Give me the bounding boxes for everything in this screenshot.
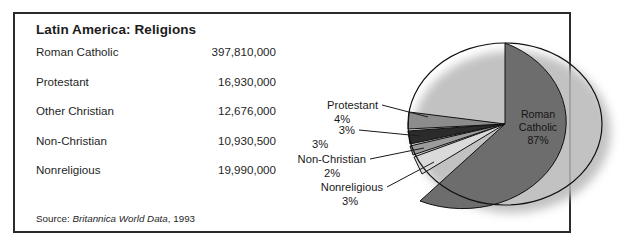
row-label-roman-catholic: Roman Catholic — [36, 46, 118, 58]
row-label-protestant: Protestant — [36, 76, 89, 88]
source-note: Source: Britannica World Data, 1993 — [36, 213, 195, 224]
pie-label-roman-catholic-line1: Roman — [521, 108, 555, 120]
table-row: Protestant 16,930,000 — [36, 76, 276, 88]
pie-callout-nonreligious: Nonreligious — [321, 181, 384, 193]
pie-label-roman-catholic-percent: 87% — [527, 134, 549, 146]
table-row: Other Christian 12,676,000 — [36, 105, 276, 117]
figure-latin-america-religions: Latin America: Religions Roman Catholic … — [0, 0, 634, 251]
row-label-non-christian: Non-Christian — [36, 135, 107, 147]
row-value-roman-catholic: 397,810,000 — [190, 46, 276, 58]
row-value-nonreligious: 19,990,000 — [190, 164, 276, 176]
pie-chart-svg: Roman Catholic 87% Protestant 4% 3% 3% N… — [282, 14, 634, 246]
pie-callout-non-christian: Non-Christian — [298, 153, 366, 165]
source-year: , 1993 — [168, 213, 195, 224]
table-row: Nonreligious 19,990,000 — [36, 164, 276, 176]
source-prefix: Source: — [36, 213, 70, 224]
religions-table: Latin America: Religions Roman Catholic … — [36, 22, 276, 194]
row-label-other-christian: Other Christian — [36, 105, 114, 117]
row-value-other-christian: 12,676,000 — [190, 105, 276, 117]
pie-callout-non-christian-percent: 2% — [324, 167, 340, 179]
leader-line-nonreligious — [387, 162, 434, 187]
page-title: Latin America: Religions — [36, 22, 276, 37]
table-row: Roman Catholic 397,810,000 — [36, 46, 276, 58]
pie-callout-nonreligious-percent: 3% — [342, 195, 358, 207]
pie-callout-protestant: Protestant — [327, 99, 379, 111]
pie-callout-other-christian-percent: 3% — [312, 138, 328, 150]
table-row: Non-Christian 10,930,500 — [36, 135, 276, 147]
pie-chart: Roman Catholic 87% Protestant 4% 3% 3% N… — [282, 14, 634, 246]
row-label-nonreligious: Nonreligious — [36, 164, 100, 176]
row-value-non-christian: 10,930,500 — [190, 135, 276, 147]
source-title: Britannica World Data — [73, 213, 168, 224]
row-value-protestant: 16,930,000 — [190, 76, 276, 88]
pie-callout-other-christian: 3% — [339, 124, 355, 136]
pie-label-roman-catholic-line2: Catholic — [519, 121, 558, 133]
